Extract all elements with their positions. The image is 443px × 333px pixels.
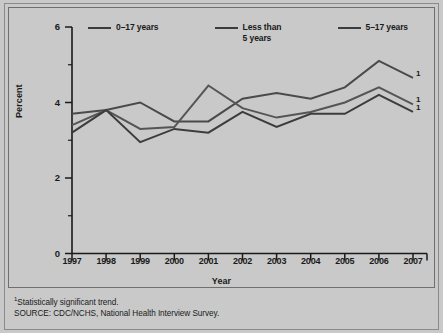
y-axis-title: Percent: [14, 84, 24, 118]
legend-label-less-than-5-years: Less than 5 years: [243, 22, 282, 43]
x-tick-label: 2003: [260, 256, 294, 266]
x-tick-label: 1997: [55, 256, 89, 266]
x-tick-label: 2005: [328, 256, 362, 266]
x-tick-label: 2002: [226, 256, 260, 266]
legend-label-0-17-years: 0–17 years: [116, 22, 159, 33]
footnote-significance: 1Statistically significant trend.: [14, 294, 219, 308]
footnote-significance-text: Statistically significant trend.: [17, 298, 118, 307]
y-tick-label: 4: [42, 97, 60, 108]
figure-footnotes: 1Statistically significant trend. SOURCE…: [14, 294, 219, 319]
y-tick-label: 6: [42, 21, 60, 32]
x-tick-label: 1998: [89, 256, 123, 266]
chart-legend: 0–17 years Less than 5 years 5–17 years: [88, 22, 408, 52]
x-tick-label: 2006: [362, 256, 396, 266]
x-tick-label: 2004: [294, 256, 328, 266]
x-axis-title: Year: [0, 276, 443, 286]
legend-item-5-17-years: 5–17 years: [338, 22, 409, 33]
legend-line-swatch-icon: [215, 27, 238, 29]
legend-item-less-than-5-years: Less than 5 years: [215, 22, 282, 43]
legend-line-swatch-icon: [88, 27, 111, 29]
legend-label-5-17-years: 5–17 years: [366, 22, 409, 33]
axes-group: [65, 27, 427, 261]
x-tick-label: 2007: [396, 256, 430, 266]
data-series-group: [72, 61, 413, 142]
x-tick-label: 2000: [157, 256, 191, 266]
chart-figure: Percent Year 6420 1997199819992000200120…: [0, 0, 443, 333]
series-endnote-marker: 1: [416, 69, 420, 78]
legend-item-0-17-years: 0–17 years: [88, 22, 159, 33]
legend-line-swatch-icon: [338, 27, 361, 29]
x-tick-label: 1999: [123, 256, 157, 266]
series-endnote-marker: 1: [416, 103, 420, 112]
y-tick-label: 2: [42, 172, 60, 183]
x-tick-label: 2001: [191, 256, 225, 266]
footnote-source: SOURCE: CDC/NCHS, National Health Interv…: [14, 308, 219, 319]
